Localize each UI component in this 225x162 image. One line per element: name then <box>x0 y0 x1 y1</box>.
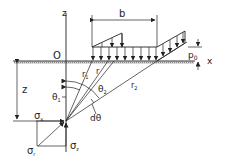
right-triangle-arrows <box>163 32 183 56</box>
r-label: r <box>96 67 100 76</box>
dtheta-label: dθ <box>90 113 102 123</box>
theta2-label: θ2 <box>98 84 107 95</box>
depth-label: z <box>22 84 27 95</box>
dtheta-arc <box>91 99 94 103</box>
ray-r1 <box>66 61 92 121</box>
z-axis-label: z <box>62 8 67 18</box>
sigma-r-label: σr <box>27 145 36 157</box>
uniform-load-arrows <box>93 47 156 60</box>
sigma-r-arrow <box>38 122 64 146</box>
r2-label: r2 <box>131 81 137 91</box>
origin-label: O <box>53 50 61 61</box>
theta1-arc <box>66 87 80 90</box>
width-label: b <box>119 8 125 19</box>
ray-r-b <box>66 61 114 121</box>
ray-r2 <box>66 61 157 121</box>
pressure-label: p0 <box>188 50 198 61</box>
sigma-x-label: σx <box>34 110 43 122</box>
sigma-z-label: σz <box>70 140 79 152</box>
x-axis-label: x <box>207 56 213 66</box>
theta1-label: θ1 <box>52 92 61 103</box>
left-triangle-load <box>92 33 122 47</box>
stress-diagram: z O x b p0 z <box>0 0 225 162</box>
